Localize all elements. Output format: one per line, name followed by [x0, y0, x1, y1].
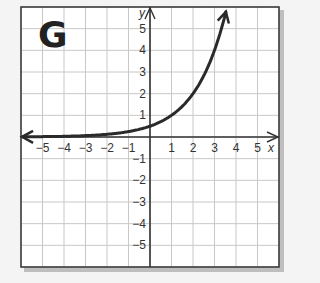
y-tick-label: 3	[139, 65, 146, 79]
y-tick-label: −2	[132, 173, 146, 187]
y-tick-label: 5	[139, 22, 146, 36]
x-tick-label: 5	[254, 141, 261, 155]
x-tick-label: 3	[211, 141, 218, 155]
y-tick-label: −1	[132, 152, 146, 166]
y-tick-label: −3	[132, 195, 146, 209]
x-tick-label: −3	[79, 141, 93, 155]
y-tick-label: −5	[132, 238, 146, 252]
y-tick-label: 2	[139, 87, 146, 101]
y-tick-label: −4	[132, 217, 146, 231]
x-tick-label: −4	[57, 141, 71, 155]
x-tick-label: −5	[36, 141, 50, 155]
y-axis-label: y	[138, 6, 146, 20]
x-tick-label: −2	[100, 141, 114, 155]
panel-label: G	[38, 17, 68, 53]
x-tick-label: 4	[233, 141, 240, 155]
x-tick-label: 2	[190, 141, 197, 155]
y-tick-label: 4	[139, 43, 146, 57]
y-tick-label: 1	[139, 108, 146, 122]
x-tick-label: 1	[168, 141, 175, 155]
x-axis-label: x	[267, 141, 275, 155]
